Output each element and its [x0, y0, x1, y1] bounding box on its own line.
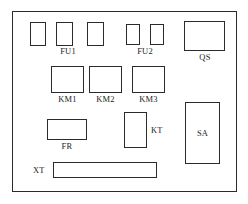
component-xt	[53, 162, 157, 178]
component-km3	[132, 66, 165, 93]
label-fu2: FU2	[129, 47, 161, 56]
label-km3: KM3	[132, 95, 165, 104]
component-qs	[184, 21, 225, 51]
component-fu2-1	[126, 24, 140, 45]
component-fu2-2	[150, 24, 164, 45]
component-fu1-1	[30, 22, 46, 46]
label-kt: KT	[151, 126, 171, 135]
label-km2: KM2	[89, 95, 122, 104]
component-kt	[124, 112, 147, 148]
label-fu1: FU1	[52, 47, 84, 56]
component-fu1-3	[87, 22, 104, 46]
label-xt: XT	[33, 166, 49, 175]
label-km1: KM1	[51, 95, 84, 104]
panel-layout-diagram: FU1FU2QSKM1KM2KM3FRKTSAXT	[0, 0, 248, 204]
label-qs: QS	[189, 53, 221, 62]
component-km1	[51, 66, 84, 93]
label-fr: FR	[51, 142, 83, 151]
label-sa: SA	[185, 102, 220, 164]
component-km2	[89, 66, 122, 93]
component-fr	[47, 119, 87, 140]
component-fu1-2	[56, 22, 73, 46]
